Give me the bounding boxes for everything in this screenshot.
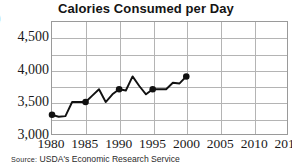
chart-figure: ) Calories Consumed per Day 3,0003,5004,… [0,0,292,168]
data-series [52,22,287,134]
data-point-marker [149,86,156,92]
data-point-marker [183,73,190,79]
y-axis-tick-label: 4,500 [3,30,49,44]
data-point-marker [82,99,89,105]
source-label: Source: [11,155,37,164]
y-axis-tick-label: 3,500 [3,95,49,109]
source-text: USDA's Economic Research Service [40,154,180,164]
series-line [52,76,186,116]
x-axis-labels: 19801985199019952000200520102015 [0,137,292,153]
data-point-marker [49,112,56,118]
plot-area [51,21,288,135]
source-credit: Source: USDA's Economic Research Service [11,154,180,164]
y-axis-tick-label: 4,000 [3,63,49,77]
series-markers [49,73,190,118]
data-point-marker [116,86,123,92]
x-axis-tick-label: 2015 [268,137,292,151]
